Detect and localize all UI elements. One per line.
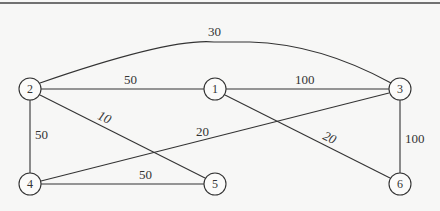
edge-2-3 <box>40 42 391 83</box>
node-label: 4 <box>27 177 33 191</box>
node-6: 6 <box>389 173 411 195</box>
node-label: 6 <box>397 177 403 191</box>
node-3: 3 <box>389 78 411 100</box>
weight-4-5: 50 <box>139 167 152 182</box>
edge-2-5 <box>40 95 205 178</box>
weight-1-3: 100 <box>295 72 315 87</box>
node-4: 4 <box>19 173 41 195</box>
weight-2-3: 30 <box>208 24 221 39</box>
weight-4-3: 20 <box>196 124 209 139</box>
node-5: 5 <box>204 173 226 195</box>
graph-diagram: 30 50 100 10 20 20 50 50 100 1 2 3 4 5 6 <box>0 0 440 211</box>
weight-2-4: 50 <box>35 127 48 142</box>
edge-1-6 <box>225 95 390 178</box>
node-label: 1 <box>212 82 218 96</box>
node-1: 1 <box>204 78 226 100</box>
weight-2-1: 50 <box>124 72 137 87</box>
node-label: 5 <box>212 177 218 191</box>
node-label: 2 <box>27 82 33 96</box>
weight-3-6: 100 <box>405 131 425 146</box>
node-label: 3 <box>397 82 403 96</box>
node-2: 2 <box>19 78 41 100</box>
